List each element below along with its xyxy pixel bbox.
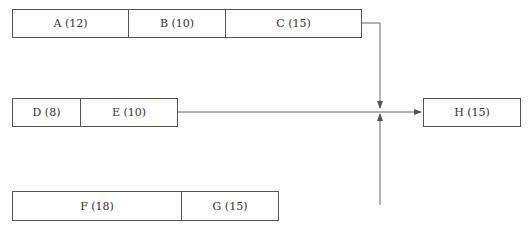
activity-label: D (8) [33, 106, 61, 119]
activity-a: A (12) [12, 9, 129, 38]
activity-g: G (15) [181, 191, 279, 221]
activity-label: G (15) [213, 200, 248, 213]
activity-c: C (15) [225, 9, 362, 38]
activity-d: D (8) [12, 98, 81, 127]
activity-label: B (10) [160, 17, 194, 30]
activity-b: B (10) [128, 9, 226, 38]
activity-e: E (10) [80, 98, 178, 127]
activity-label: H (15) [454, 106, 490, 119]
activity-f: F (18) [12, 191, 182, 221]
activity-label: C (15) [276, 17, 311, 30]
activity-label: F (18) [80, 200, 114, 213]
activity-h: H (15) [423, 98, 521, 127]
activity-label: A (12) [53, 17, 87, 30]
activity-label: E (10) [112, 106, 146, 119]
